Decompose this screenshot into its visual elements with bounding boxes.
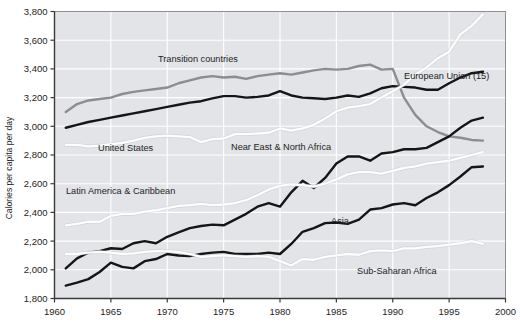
x-tick-label: 1980 <box>269 306 290 317</box>
calories-per-capita-line-chart: 1,8002,0002,2002,4002,6002,8003,0003,200… <box>0 0 520 330</box>
y-tick-label: 3,400 <box>24 63 48 74</box>
y-axis-title: Calories per capita per day <box>4 116 14 219</box>
series-annotation-asia: Asia <box>331 216 350 226</box>
x-tick-label: 1985 <box>326 306 347 317</box>
series-annotation-european-union-15: European Union (15) <box>404 71 489 81</box>
y-tick-label: 2,400 <box>24 207 48 218</box>
y-tick-label: 3,600 <box>24 35 48 46</box>
y-tick-label: 2,600 <box>24 178 48 189</box>
series-annotation-united-states: United States <box>98 143 154 153</box>
y-tick-label: 2,200 <box>24 236 48 247</box>
y-tick-label: 3,000 <box>24 121 48 132</box>
y-tick-label: 2,800 <box>24 149 48 160</box>
x-tick-label: 1965 <box>100 306 121 317</box>
x-tick-label: 1960 <box>44 306 65 317</box>
x-tick-label: 1975 <box>213 306 234 317</box>
y-tick-label: 1,800 <box>24 293 48 304</box>
y-tick-label: 2,000 <box>24 264 48 275</box>
y-axis-title-text: Calories per capita per day <box>4 116 14 219</box>
chart-container: 1,8002,0002,2002,4002,6002,8003,0003,200… <box>0 0 520 330</box>
x-tick-label: 2000 <box>495 306 516 317</box>
series-annotation-transition-countries: Transition countries <box>158 54 238 64</box>
y-tick-label: 3,800 <box>24 6 48 17</box>
series-annotation-near-east-north-africa: Near East & North Africa <box>231 142 332 152</box>
x-tick-label: 1990 <box>382 306 403 317</box>
y-tick-label: 3,200 <box>24 92 48 103</box>
series-annotation-latin-america-caribbean: Latin America & Caribbean <box>66 186 175 196</box>
x-tick-label: 1995 <box>439 306 460 317</box>
x-tick-label: 1970 <box>157 306 178 317</box>
series-annotation-sub-saharan-africa: Sub-Saharan Africa <box>357 266 438 276</box>
